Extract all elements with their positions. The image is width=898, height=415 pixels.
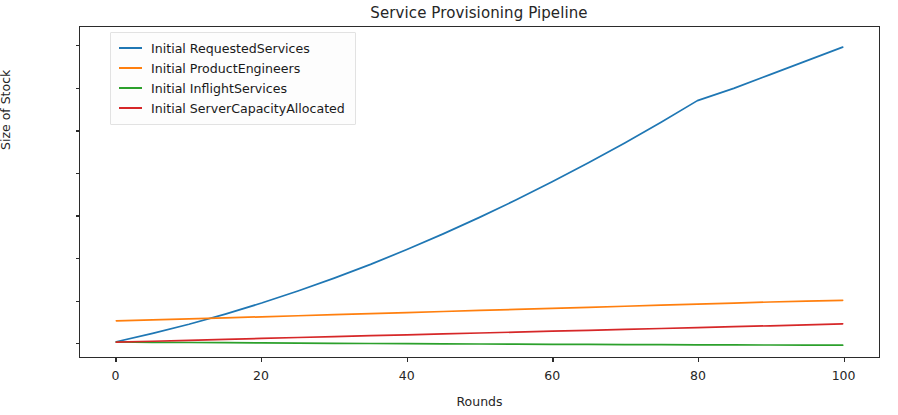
legend-item-label: Initial ServerCapacityAllocated xyxy=(151,101,345,116)
x-axis-tick-mark xyxy=(115,358,116,362)
y-axis-label: Size of Stock xyxy=(0,70,13,150)
legend-color-swatch xyxy=(119,87,142,89)
x-axis-tick-label: 60 xyxy=(522,368,582,383)
series-line xyxy=(116,324,842,342)
x-axis-tick-mark xyxy=(844,358,845,362)
legend-item-label: Initial RequestedServices xyxy=(151,41,310,56)
legend-item-label: Initial InflightServices xyxy=(151,81,287,96)
legend-color-swatch xyxy=(119,107,142,109)
x-axis-tick-mark xyxy=(261,358,262,362)
x-axis-tick-label: 100 xyxy=(814,368,874,383)
legend-color-swatch xyxy=(119,67,142,69)
x-axis-tick-mark xyxy=(552,358,553,362)
legend: Initial RequestedServicesInitial Product… xyxy=(110,32,356,125)
legend-item[interactable]: Initial ProductEngineers xyxy=(119,58,345,78)
x-axis-label: Rounds xyxy=(79,394,880,409)
legend-item[interactable]: Initial ServerCapacityAllocated xyxy=(119,98,345,118)
legend-color-swatch xyxy=(119,47,142,49)
x-axis-tick-label: 20 xyxy=(231,368,291,383)
legend-item[interactable]: Initial InflightServices xyxy=(119,78,345,98)
legend-item-label: Initial ProductEngineers xyxy=(151,61,300,76)
x-axis-tick-label: 80 xyxy=(668,368,728,383)
x-axis-tick-mark xyxy=(407,358,408,362)
x-axis-tick-mark xyxy=(698,358,699,362)
matplotlib-figure: Service Provisioning Pipeline Size of St… xyxy=(0,0,898,415)
legend-item[interactable]: Initial RequestedServices xyxy=(119,38,345,58)
series-line xyxy=(116,300,842,321)
series-line xyxy=(116,342,842,345)
chart-title: Service Provisioning Pipeline xyxy=(78,4,880,22)
x-axis-tick-label: 40 xyxy=(377,368,437,383)
x-axis-tick-label: 0 xyxy=(85,368,145,383)
